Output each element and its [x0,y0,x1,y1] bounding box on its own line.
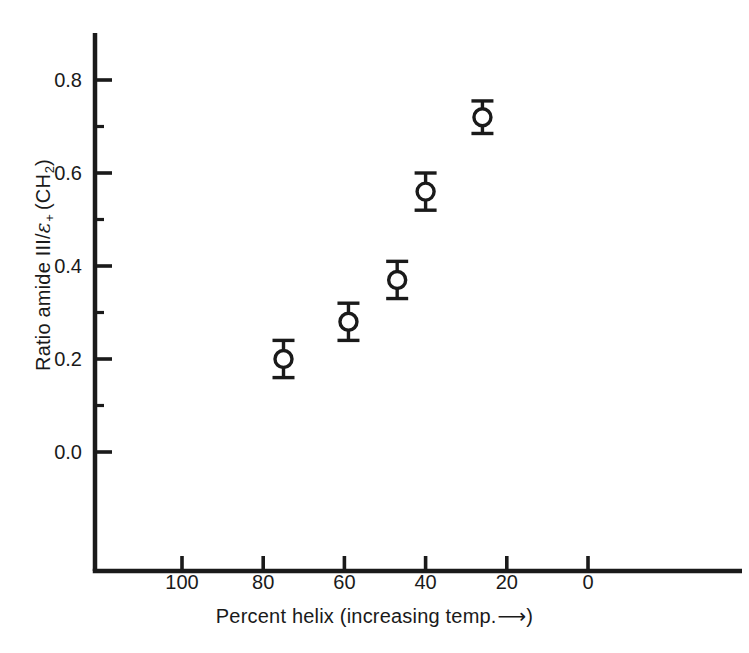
y-axis-tick-label: 0.4 [14,255,82,278]
data-point [273,340,295,377]
data-point [415,173,437,210]
y-axis-tick-label: 0.2 [14,348,82,371]
data-series [273,101,494,378]
y-axis-tick-label: 0.8 [14,69,82,92]
x-axis-tick-labels: 100806040200 [0,571,749,601]
y-axis-tick-labels: 0.00.20.40.60.8 [0,0,82,653]
y-axis-tick-label: 0.6 [14,162,82,185]
data-point [337,303,359,340]
x-axis-label: Percent helix (increasing temp.⟶) [0,604,749,628]
x-label-pre: Percent helix (increasing temp. [216,605,497,627]
x-axis-tick-label: 0 [548,571,628,594]
data-point [386,261,408,298]
figure: 0.00.20.40.60.8 100806040200 Ratio amide… [0,0,749,653]
x-label-post: ) [526,605,533,627]
y-axis-tick-label: 0.0 [14,441,82,464]
scatter-plot-canvas [0,0,749,653]
axes [93,33,742,571]
increasing-temp-arrow-icon: ⟶ [497,604,527,628]
x-axis-tick-label: 40 [386,571,466,594]
x-axis-tick-label: 100 [142,571,222,594]
x-axis-tick-label: 60 [304,571,384,594]
x-axis-tick-label: 20 [467,571,547,594]
data-point [471,101,493,134]
x-axis-tick-label: 80 [223,571,303,594]
